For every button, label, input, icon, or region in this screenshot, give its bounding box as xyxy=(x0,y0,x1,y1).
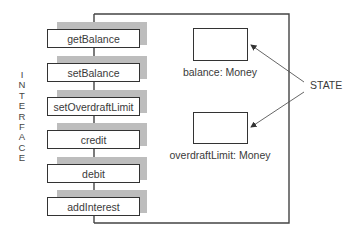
operation-label: getBalance xyxy=(67,33,120,45)
state-field-balance-label: balance: Money xyxy=(170,66,270,78)
operation-add-interest: addInterest xyxy=(47,197,140,216)
operation-set-overdraft-limit: setOverdraftLimit xyxy=(47,97,140,116)
state-field-overdraft-box xyxy=(193,112,248,144)
operation-credit: credit xyxy=(47,130,140,149)
operation-debit: debit xyxy=(47,164,140,183)
state-field-balance-box xyxy=(193,28,248,61)
operation-label: setOverdraftLimit xyxy=(54,101,134,113)
operation-label: credit xyxy=(81,134,107,146)
interface-letter: E xyxy=(19,101,25,111)
operation-label: setBalance xyxy=(68,67,120,79)
interface-letter: E xyxy=(19,153,25,163)
interface-label: I N T E R F A C E xyxy=(17,70,27,164)
operation-label: addInterest xyxy=(67,201,120,213)
operation-get-balance: getBalance xyxy=(47,29,140,48)
operation-set-balance: setBalance xyxy=(47,63,140,82)
operation-label: debit xyxy=(82,168,105,180)
object-diagram: getBalance setBalance setOverdraftLimit … xyxy=(0,0,351,234)
state-annotation: STATE xyxy=(310,79,342,91)
state-field-overdraft-label: overdraftLimit: Money xyxy=(160,149,280,161)
state-arrow-overdraft xyxy=(251,92,304,127)
